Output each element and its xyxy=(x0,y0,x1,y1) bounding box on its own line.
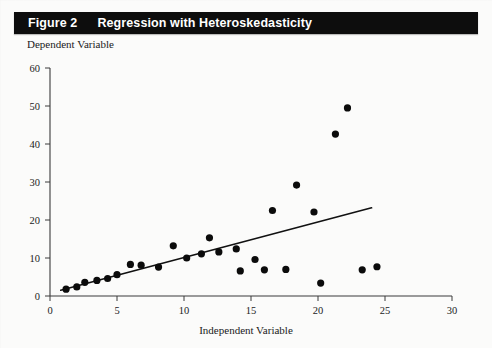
data-point xyxy=(81,279,88,286)
x-tick-label: 0 xyxy=(47,305,52,316)
x-axis-ticks: 051015202530 xyxy=(47,296,457,316)
data-point xyxy=(127,261,134,268)
x-tick-label: 30 xyxy=(447,305,458,316)
y-axis-ticks: 0102030405060 xyxy=(30,63,51,302)
data-point xyxy=(104,275,111,282)
data-point xyxy=(233,245,240,252)
y-tick-label: 0 xyxy=(35,291,40,302)
data-point xyxy=(113,271,120,278)
y-tick-label: 20 xyxy=(30,215,41,226)
data-point xyxy=(155,264,162,271)
data-point xyxy=(269,207,276,214)
y-tick-label: 50 xyxy=(30,101,41,112)
data-point xyxy=(93,277,100,284)
y-tick-label: 60 xyxy=(30,63,41,74)
data-point xyxy=(206,234,213,241)
data-point xyxy=(261,266,268,273)
data-point xyxy=(317,279,324,286)
x-tick-label: 15 xyxy=(246,305,257,316)
data-point xyxy=(215,248,222,255)
data-point xyxy=(359,266,366,273)
scatter-plot: 0102030405060 051015202530 xyxy=(0,0,492,348)
data-point xyxy=(293,181,300,188)
x-tick-label: 5 xyxy=(114,305,119,316)
data-point xyxy=(344,104,351,111)
y-tick-label: 30 xyxy=(30,177,41,188)
data-point xyxy=(198,250,205,257)
y-tick-label: 10 xyxy=(30,253,41,264)
data-point xyxy=(170,242,177,249)
data-point xyxy=(373,263,380,270)
data-point xyxy=(237,267,244,274)
data-point xyxy=(251,256,258,263)
y-tick-label: 40 xyxy=(30,139,41,150)
data-point xyxy=(310,208,317,215)
x-tick-label: 10 xyxy=(179,305,190,316)
data-point xyxy=(332,131,339,138)
data-point xyxy=(282,266,289,273)
data-point xyxy=(73,283,80,290)
figure-container: Figure 2 Regression with Heteroskedastic… xyxy=(0,0,492,348)
data-points xyxy=(62,104,380,292)
data-point xyxy=(138,262,145,269)
data-point xyxy=(183,254,190,261)
data-point xyxy=(62,286,69,293)
x-tick-label: 25 xyxy=(380,305,391,316)
x-axis-title: Independent Variable xyxy=(0,324,492,336)
x-tick-label: 20 xyxy=(313,305,324,316)
